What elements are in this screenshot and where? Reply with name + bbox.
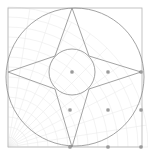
point-mid-right[interactable] xyxy=(107,71,109,73)
drawing-canvas xyxy=(0,0,148,154)
point-edge-bottom-mid[interactable] xyxy=(107,146,109,148)
point-edge-right-lower[interactable] xyxy=(140,109,142,111)
point-lower-right[interactable] xyxy=(107,109,109,111)
point-edge-right-upper[interactable] xyxy=(140,71,142,73)
point-center[interactable] xyxy=(71,71,73,73)
point-edge-bottom-left[interactable] xyxy=(69,146,71,148)
point-edge-bottom-right[interactable] xyxy=(140,146,142,148)
geometric-construction-svg xyxy=(0,0,148,154)
point-lower-left[interactable] xyxy=(69,109,71,111)
